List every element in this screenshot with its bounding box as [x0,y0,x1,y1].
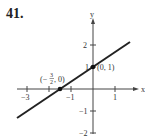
x-tick-label: −3 [21,93,30,102]
point-label-0-1: (0, 1) [97,63,115,72]
point-0-1 [91,65,96,70]
svg-text:(−: (− [40,75,48,84]
graph: x y −3 −1 1 2 1 −1 −2 (0, 1) (− 3 2 , 0) [0,0,145,137]
x-tick-label: −1 [66,93,75,102]
svg-text:, 0): , 0) [54,75,65,84]
x-tick-label: 1 [113,93,117,102]
y-tick-label: 2 [83,41,87,50]
y-tick-label: −2 [79,129,88,137]
y-axis-label: y [90,10,94,19]
svg-text:2: 2 [50,79,53,85]
x-axis-arrow-icon [133,87,139,91]
svg-text:3: 3 [50,72,53,78]
line-series [17,42,130,118]
point-label-neg3half-0: (− 3 2 , 0) [40,72,65,85]
point-neg3half-0 [58,87,63,92]
x-axis-label: x [141,85,145,94]
y-tick-label: −1 [79,107,88,116]
